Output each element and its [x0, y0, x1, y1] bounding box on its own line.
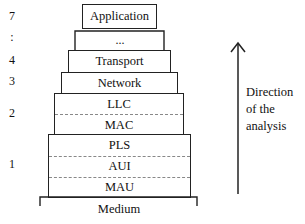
llc-label: LLC: [55, 97, 183, 112]
layer-number-ellipsis: :: [5, 30, 19, 45]
medium-label: Medium: [40, 202, 198, 217]
direction-label: Direction of the analysis: [246, 84, 293, 135]
aui-label: AUI: [49, 159, 190, 174]
mau-label: MAU: [49, 180, 190, 195]
physical-layer: PLS AUI MAU: [48, 134, 191, 198]
pls-aui-divider: [49, 156, 190, 157]
direction-label-line-1: Direction: [246, 84, 293, 101]
network-layer: Network: [61, 72, 178, 94]
aui-mau-divider: [49, 177, 190, 178]
data-link-layer: LLC MAC: [54, 93, 184, 135]
layer-number-3: 3: [5, 74, 19, 89]
pls-label: PLS: [49, 138, 190, 153]
llc-mac-divider: [55, 114, 183, 115]
direction-label-line-3: analysis: [246, 118, 293, 135]
layer-number-4: 4: [5, 53, 19, 68]
layer-number-2: 2: [5, 106, 19, 121]
network-label: Network: [62, 76, 177, 91]
mac-label: MAC: [55, 118, 183, 133]
application-layer: Application: [82, 4, 157, 29]
layer-number-1: 1: [5, 157, 19, 172]
transport-layer: Transport: [68, 50, 171, 73]
transport-label: Transport: [69, 54, 170, 69]
layer-number-7: 7: [5, 9, 19, 24]
direction-label-line-2: of the: [246, 101, 293, 118]
application-label: Application: [83, 9, 156, 24]
up-arrow-icon: [228, 40, 248, 196]
ellipsis-label: ...: [74, 33, 166, 48]
